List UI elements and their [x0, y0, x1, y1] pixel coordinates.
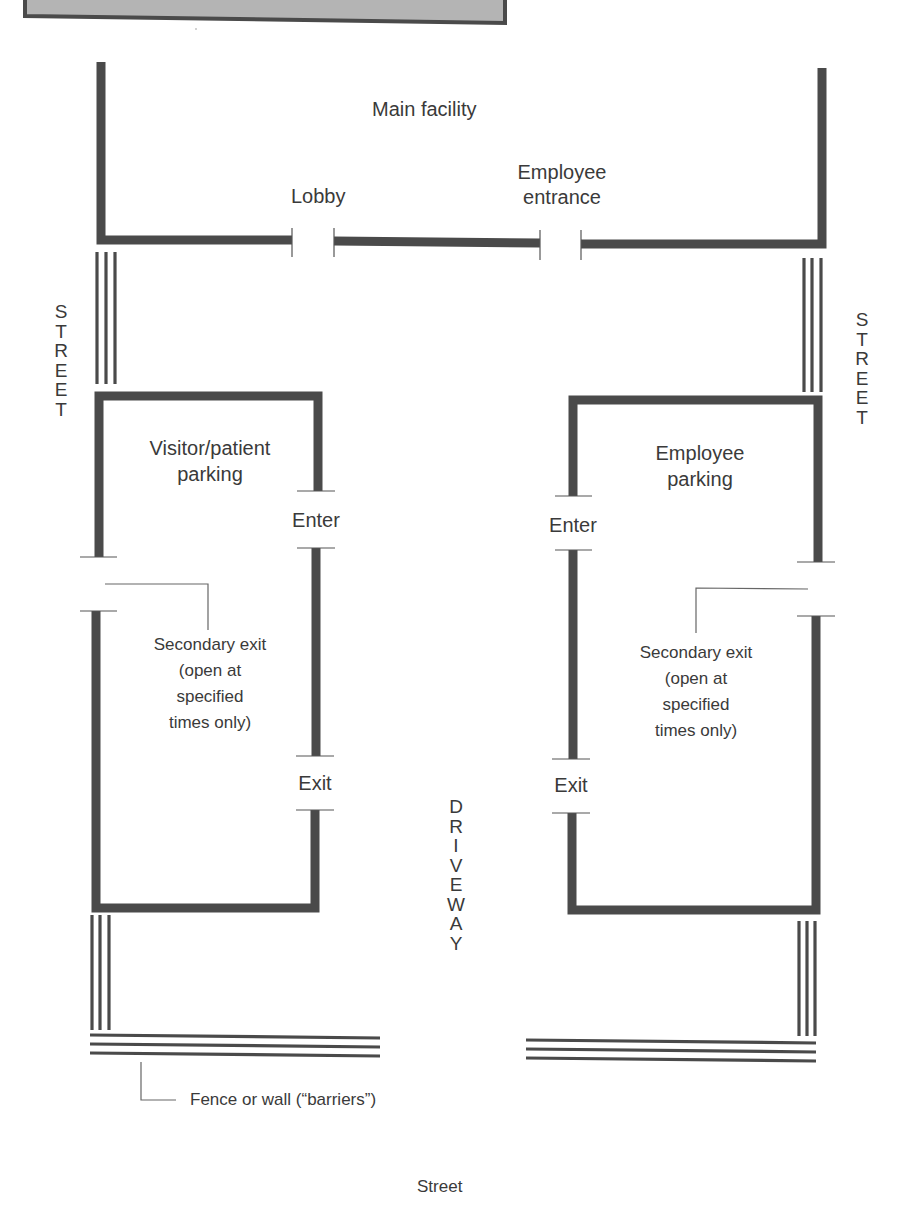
note-line: Secondary exit: [616, 642, 776, 664]
barrier-note-label: Fence or wall (“barriers”): [190, 1089, 376, 1111]
main-facility-label: Main facility: [372, 97, 476, 121]
right-enter-label: Enter: [543, 513, 603, 537]
bottom-street-label: Street: [417, 1176, 462, 1198]
street-left-label: S T R E E T: [51, 302, 71, 419]
left-secondary-exit-note: Secondary exit (open at specified times …: [130, 634, 290, 734]
street-right-label: S T R E E T: [852, 310, 872, 427]
right-exit-label: Exit: [548, 773, 594, 797]
right-secondary-exit-note: Secondary exit (open at specified times …: [616, 642, 776, 742]
note-line: times only): [616, 720, 776, 742]
left-secondary-exit-callout: [105, 584, 208, 630]
employee-entrance-label-line1: Employee: [508, 160, 616, 184]
employee-parking-label-line1: Employee: [640, 441, 760, 465]
note-line: times only): [130, 712, 290, 734]
note-line: (open at: [616, 668, 776, 690]
barriers-horizontal: [90, 1035, 816, 1061]
visitor-parking-label-line1: Visitor/patient: [135, 436, 285, 460]
employee-parking-label-line2: parking: [640, 467, 760, 491]
left-exit-label: Exit: [292, 771, 338, 795]
note-line: specified: [130, 686, 290, 708]
main-facility-walls: [101, 62, 822, 244]
right-secondary-exit-callout: [696, 588, 808, 633]
lobby-label: Lobby: [291, 184, 346, 208]
note-line: Secondary exit: [130, 634, 290, 656]
note-line: specified: [616, 694, 776, 716]
barrier-note-callout: [141, 1062, 176, 1100]
driveway-label: D R I V E W A Y: [446, 797, 466, 953]
left-enter-label: Enter: [288, 508, 344, 532]
top-banner-box: [25, 0, 505, 23]
site-plan-drawing: [0, 0, 914, 1206]
visitor-parking-label-line2: parking: [135, 462, 285, 486]
note-line: (open at: [130, 660, 290, 682]
stray-mark: [195, 28, 197, 30]
employee-entrance-label-line2: entrance: [508, 185, 616, 209]
